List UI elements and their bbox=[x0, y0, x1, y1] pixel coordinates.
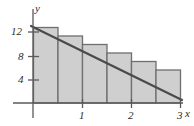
y-tick-label-12: 12 bbox=[11, 26, 22, 37]
y-tick-label-4: 4 bbox=[18, 74, 24, 85]
x-tick-label-3: 3 bbox=[177, 110, 183, 121]
riemann-sum-figure: 12 8 4 1 2 3 y x bbox=[0, 0, 194, 126]
x-tick-label-1: 1 bbox=[79, 110, 85, 121]
x-axis-name: x bbox=[185, 108, 190, 119]
y-tick-label-8: 8 bbox=[18, 51, 24, 62]
riemann-bar-4 bbox=[107, 53, 132, 103]
plot-canvas bbox=[0, 0, 194, 126]
riemann-bar-1 bbox=[34, 28, 59, 104]
x-tick-label-2: 2 bbox=[128, 110, 134, 121]
y-axis-name: y bbox=[35, 3, 40, 14]
